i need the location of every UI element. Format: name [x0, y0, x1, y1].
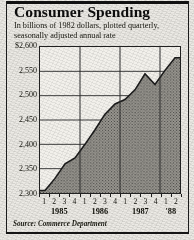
x-axis-quarter-label: 4: [110, 197, 120, 206]
chart-subtitle-line-2: seasonally adjusted annual rate: [14, 31, 184, 41]
x-axis-year-label: '88: [154, 207, 188, 216]
chart-card: Consumer Spending In billions of 1982 do…: [0, 0, 194, 240]
x-axis-quarter-label: 2: [171, 197, 181, 206]
bottom-rule: [6, 232, 189, 234]
y-axis-label: 2,400: [0, 140, 37, 149]
chart-title: Consumer Spending: [14, 3, 150, 21]
y-axis-label: 2,500: [0, 90, 37, 99]
x-axis-quarter-label: 4: [70, 197, 80, 206]
x-axis-quarter-label: 3: [59, 197, 69, 206]
x-axis-quarter-label: 3: [100, 197, 110, 206]
x-axis-quarter-label: 2: [49, 197, 59, 206]
y-axis-label: 2,350: [0, 164, 37, 173]
plot-area: [39, 46, 181, 194]
x-axis-tick: [181, 194, 182, 197]
x-axis-year-label: 1987: [123, 207, 157, 216]
x-axis-quarter-label: 1: [161, 197, 171, 206]
y-axis-label: 2,450: [0, 115, 37, 124]
x-axis-quarter-label: 4: [151, 197, 161, 206]
x-axis-quarter-label: 1: [80, 197, 90, 206]
x-axis-quarter-label: 1: [39, 197, 49, 206]
x-axis-quarter-label: 2: [130, 197, 140, 206]
y-axis-labels: $2,6002,5502,5002,4502,4002,3502,300: [0, 46, 37, 194]
right-rule: [188, 1, 189, 233]
chart-subtitle: In billions of 1982 dollars, plotted qua…: [14, 21, 184, 40]
x-axis-year-labels: 198519861987'88: [39, 207, 181, 219]
chart-subtitle-line-1: In billions of 1982 dollars, plotted qua…: [14, 21, 184, 31]
y-axis-label: 2,550: [0, 66, 37, 75]
y-axis-label: 2,300: [0, 189, 37, 198]
x-axis-year-label: 1986: [83, 207, 117, 216]
x-axis-quarter-label: 2: [90, 197, 100, 206]
area-series: [40, 47, 180, 193]
y-axis-label: $2,600: [0, 41, 37, 50]
x-axis-quarter-label: 1: [120, 197, 130, 206]
x-axis-quarter-label: 3: [141, 197, 151, 206]
x-axis-year-label: 1985: [42, 207, 76, 216]
source-note: Source: Commerce Department: [13, 220, 107, 228]
